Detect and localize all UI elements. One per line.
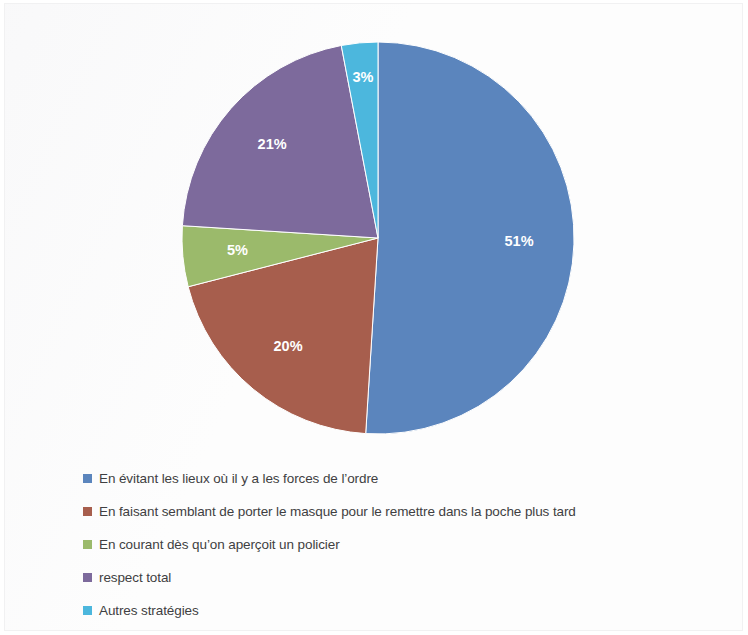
- legend-swatch-icon: [83, 507, 92, 516]
- legend-swatch-icon: [83, 540, 92, 549]
- legend-item-5[interactable]: Autres stratégies: [83, 594, 723, 627]
- pie-chart-figure: 51%20%5%21%3% En évitant les lieux où il…: [0, 0, 748, 635]
- legend-swatch-icon: [83, 474, 92, 483]
- legend-swatch-icon: [83, 606, 92, 615]
- slice-en-courant-value-label: 5%: [227, 242, 248, 258]
- slice-en-evitant-les-lieux-value-label: 51%: [505, 233, 534, 249]
- legend-item-label: respect total: [99, 570, 171, 585]
- legend-item-4[interactable]: respect total: [83, 561, 723, 594]
- legend-item-3[interactable]: En courant dès qu’on aperçoit un policie…: [83, 528, 723, 561]
- slice-en-faisant-semblant-value-label: 20%: [274, 338, 303, 354]
- legend-item-label: En faisant semblant de porter le masque …: [99, 504, 576, 519]
- chart-legend: En évitant les lieux où il y a les force…: [83, 462, 723, 627]
- slice-autres-strategies-value-label: 3%: [352, 69, 373, 85]
- legend-item-1[interactable]: En évitant les lieux où il y a les force…: [83, 462, 723, 495]
- legend-swatch-icon: [83, 573, 92, 582]
- legend-item-label: En évitant les lieux où il y a les force…: [99, 471, 378, 486]
- pie-chart-svg: 51%20%5%21%3%: [180, 40, 576, 436]
- slice-respect-total-value-label: 21%: [258, 136, 287, 152]
- legend-item-label: En courant dès qu’on aperçoit un policie…: [99, 537, 340, 552]
- legend-item-label: Autres stratégies: [99, 603, 199, 618]
- legend-item-2[interactable]: En faisant semblant de porter le masque …: [83, 495, 723, 528]
- pie-chart-plot-area: 51%20%5%21%3%: [180, 40, 576, 436]
- slice-en-evitant-les-lieux[interactable]: [366, 42, 574, 434]
